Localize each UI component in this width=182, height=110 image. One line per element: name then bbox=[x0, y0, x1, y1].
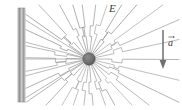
field-line bbox=[82, 66, 88, 105]
field-line bbox=[90, 5, 96, 52]
field-line bbox=[26, 15, 83, 56]
field-line bbox=[96, 39, 179, 57]
electric-field-lines bbox=[26, 5, 180, 105]
field-line bbox=[95, 20, 179, 57]
physics-figure: E a bbox=[0, 0, 182, 110]
field-line bbox=[96, 59, 179, 63]
field-line bbox=[39, 5, 84, 54]
field-label-E: E bbox=[109, 3, 116, 14]
field-line bbox=[91, 65, 105, 105]
field-line bbox=[89, 66, 93, 105]
field-line bbox=[60, 5, 86, 53]
conducting-wall bbox=[18, 8, 25, 102]
vector-arrow-accent-icon bbox=[168, 35, 175, 39]
field-line bbox=[91, 5, 107, 53]
field-line bbox=[62, 65, 85, 105]
acceleration-label-group: a bbox=[168, 38, 173, 48]
figure-canvas bbox=[0, 0, 182, 110]
acceleration-arrow bbox=[160, 30, 167, 69]
field-line bbox=[96, 61, 179, 81]
point-charge bbox=[83, 53, 95, 65]
